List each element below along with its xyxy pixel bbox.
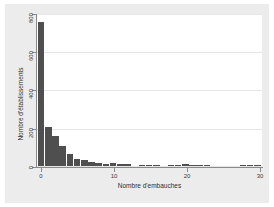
histogram-bar bbox=[196, 165, 203, 166]
histogram-bar bbox=[240, 165, 247, 166]
histogram-figure: 800 600 400 200 0 0 10 20 30 Nombre d'ét… bbox=[0, 0, 274, 207]
y-axis-line bbox=[36, 14, 37, 168]
histogram-bar bbox=[247, 165, 254, 166]
x-tick-label-20: 20 bbox=[177, 173, 197, 179]
gridline-400 bbox=[37, 90, 262, 91]
gridline-200 bbox=[37, 129, 262, 130]
histogram-bar bbox=[59, 146, 66, 166]
histogram-bar bbox=[189, 165, 196, 166]
histogram-bar bbox=[67, 154, 74, 166]
plot-area bbox=[37, 14, 262, 167]
histogram-bar bbox=[254, 165, 261, 166]
histogram-bar bbox=[52, 136, 59, 166]
y-tick-label-wrap-800: 800 bbox=[0, 10, 31, 18]
gridline-800 bbox=[37, 14, 262, 15]
y-axis-title: Nombre d'établissements bbox=[16, 27, 26, 181]
y-tick-label-600: 600 bbox=[28, 51, 34, 61]
x-tick-label-30: 30 bbox=[250, 173, 270, 179]
histogram-bar bbox=[81, 160, 88, 166]
histogram-bar bbox=[175, 165, 182, 166]
histogram-bar bbox=[74, 159, 81, 166]
histogram-bar bbox=[88, 162, 95, 166]
histogram-bar bbox=[146, 165, 153, 166]
y-tick-label-800: 800 bbox=[28, 13, 34, 23]
histogram-bar bbox=[124, 164, 131, 166]
histogram-bar bbox=[117, 164, 124, 166]
gridline-600 bbox=[37, 52, 262, 53]
histogram-bar bbox=[139, 165, 146, 166]
y-tick-label-200: 200 bbox=[28, 128, 34, 138]
histogram-bar bbox=[182, 164, 189, 166]
histogram-bar bbox=[168, 165, 175, 166]
y-tick-label-400: 400 bbox=[28, 89, 34, 99]
histogram-bar bbox=[153, 165, 160, 166]
histogram-bar bbox=[95, 163, 102, 166]
histogram-bar bbox=[103, 164, 110, 166]
y-axis-title-container: Nombre d'établissements bbox=[8, 167, 162, 177]
x-axis-title: Nombre d'embauches bbox=[37, 183, 262, 190]
histogram-bar bbox=[45, 127, 52, 166]
histogram-bar bbox=[38, 22, 45, 166]
histogram-bar bbox=[110, 163, 117, 166]
x-tick-mark-20 bbox=[187, 168, 188, 172]
histogram-bar bbox=[204, 165, 211, 166]
x-tick-mark-30 bbox=[260, 168, 261, 172]
